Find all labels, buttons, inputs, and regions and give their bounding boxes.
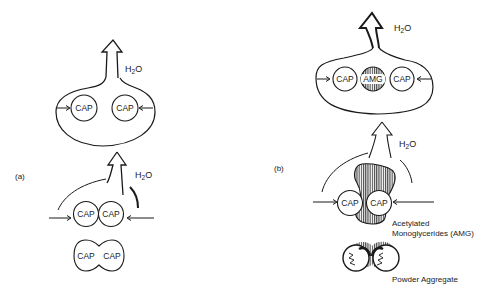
water-label: H2O	[394, 23, 411, 34]
panel-b-contact: H2O CAP CAP Acetylated Monoglycerides (A…	[313, 122, 474, 238]
cap-particle-label: CAP	[116, 103, 134, 113]
water-label: H2O	[125, 64, 142, 75]
cap-particle-label: CAP	[341, 198, 359, 208]
panel-b: H2O CAP AMG CAP (b) H2O CAP CAP	[274, 13, 474, 284]
water-arrow-icon	[107, 152, 117, 183]
water-label: H2O	[399, 139, 416, 150]
panel-a-contact: H2O CAP CAP	[49, 152, 154, 227]
water-arrow-icon	[102, 40, 122, 78]
droplet-outline	[56, 77, 155, 146]
cap-particle-label: CAP	[393, 74, 411, 84]
cap-particle-label: CAP	[102, 209, 120, 219]
water-arrow-icon	[369, 122, 382, 158]
diagram-canvas: H2O CAP CAP (a) H2O CAP CAP	[0, 0, 498, 295]
aggregate-caption: Powder Aggregate	[392, 275, 458, 284]
panel-a: H2O CAP CAP (a) H2O CAP CAP	[15, 40, 155, 271]
panel-a-label: (a)	[15, 172, 25, 181]
cap-particle-label: CAP	[75, 103, 93, 113]
amg-label-line1: Acetylated	[392, 219, 429, 228]
panel-b-label: (b)	[274, 164, 284, 173]
amg-particle-label: AMG	[363, 74, 382, 84]
cap-particle-label: CAP	[103, 251, 121, 261]
panel-a-fused: CAP CAP	[74, 240, 124, 271]
amg-label-line2: Monoglycerides (AMG)	[392, 229, 474, 238]
panel-b-droplet: H2O CAP AMG CAP	[316, 13, 433, 114]
cap-particle-label: CAP	[77, 251, 95, 261]
panel-a-droplet: H2O CAP CAP	[56, 40, 155, 146]
panel-b-aggregate: Powder Aggregate	[343, 242, 458, 284]
cap-particle-label: CAP	[77, 209, 95, 219]
water-arrow-icon	[360, 13, 382, 48]
water-label: H2O	[135, 170, 152, 181]
cap-particle-label: CAP	[336, 74, 354, 84]
cap-particle-label: CAP	[370, 198, 388, 208]
